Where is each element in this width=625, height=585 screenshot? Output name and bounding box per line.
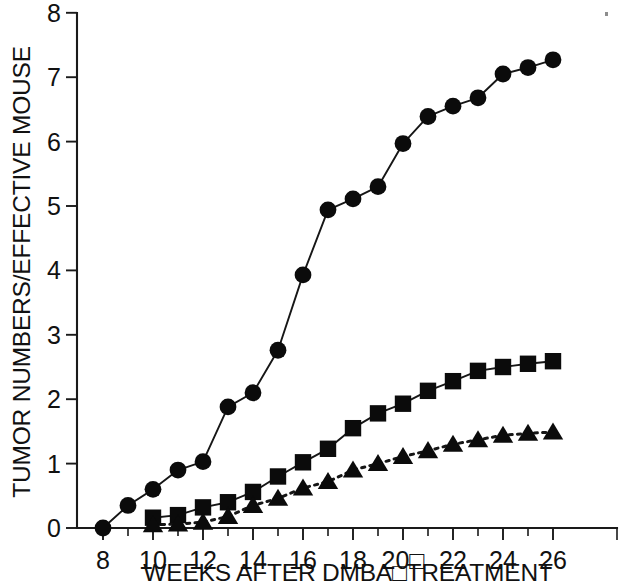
data-point-circles [420, 108, 437, 125]
data-point-circles [495, 66, 512, 83]
data-point-circles [320, 201, 337, 218]
data-point-squares [345, 420, 361, 436]
tumor-line-chart: 0123456788101214161820□222426 TUMOR NUMB… [0, 0, 625, 585]
data-point-circles [520, 59, 537, 76]
data-point-circles [95, 520, 112, 537]
chart-figure: 0123456788101214161820□222426 TUMOR NUMB… [0, 0, 625, 585]
data-point-circles [295, 267, 312, 284]
axis-group [66, 13, 617, 540]
y-axis-tick-label: 5 [47, 192, 61, 220]
y-axis-tick-label: 4 [47, 256, 61, 284]
scan-speck-artifact [605, 12, 608, 16]
data-point-squares [295, 454, 311, 470]
data-point-circles [370, 178, 387, 195]
series-line-circles [103, 60, 553, 528]
data-point-circles [445, 98, 462, 115]
data-point-squares [320, 441, 336, 457]
y-axis-tick-label: 6 [47, 128, 61, 156]
data-point-squares [445, 373, 461, 389]
data-point-squares [370, 405, 386, 421]
x-axis-tick-label: 8 [96, 546, 110, 574]
data-point-squares [470, 363, 486, 379]
data-point-circles [170, 462, 187, 479]
series-group [95, 51, 564, 536]
series-line-triangles [153, 432, 553, 525]
data-point-circles [470, 89, 487, 106]
data-point-circles [395, 135, 412, 152]
data-point-triangles [268, 489, 288, 506]
data-point-triangles [318, 472, 338, 489]
data-point-squares [395, 396, 411, 412]
data-point-circles [270, 342, 287, 359]
x-axis-title: WEEKS AFTER DMBA□TREATMENT [143, 559, 553, 585]
data-point-squares [495, 359, 511, 375]
y-axis-tick-label: 1 [47, 450, 61, 478]
y-axis-tick-label: 3 [47, 321, 61, 349]
data-point-triangles [368, 454, 388, 471]
data-point-circles [195, 453, 212, 470]
data-point-circles [545, 51, 562, 68]
y-axis-tick-label: 2 [47, 385, 61, 413]
y-axis-title: TUMOR NUMBERS/EFFECTIVE MOUSE [8, 46, 35, 498]
data-point-circles [120, 497, 137, 514]
data-point-circles [220, 399, 237, 416]
data-point-circles [345, 191, 362, 208]
data-point-squares [420, 383, 436, 399]
y-axis-tick-label: 7 [47, 63, 61, 91]
data-point-circles [145, 481, 162, 498]
data-point-squares [545, 353, 561, 369]
y-axis-tick-label: 8 [47, 0, 61, 27]
data-point-circles [245, 384, 262, 401]
data-point-squares [520, 356, 536, 372]
data-point-squares [270, 468, 286, 484]
y-axis-tick-label: 0 [47, 514, 61, 542]
data-point-triangles [343, 460, 363, 477]
